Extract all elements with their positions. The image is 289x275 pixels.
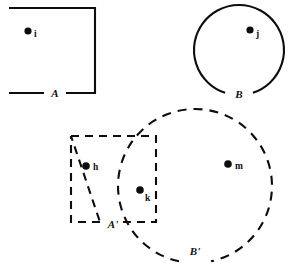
point-i-dot [24, 27, 31, 34]
point-m-dot [224, 160, 232, 168]
region-a-square-outline [9, 8, 95, 93]
point-k-dot [136, 186, 144, 194]
region-a-prime-square-outline [71, 136, 156, 222]
point-m: m [224, 160, 243, 171]
region-b-prime-label: B' [189, 245, 200, 257]
point-h: h [82, 162, 99, 172]
point-k-label: k [145, 193, 151, 203]
point-i: i [24, 27, 37, 39]
point-k: k [136, 186, 151, 203]
point-h-dot [82, 162, 90, 170]
region-b-group: B [194, 5, 284, 100]
region-a-label: A [50, 87, 58, 99]
point-m-label: m [235, 161, 243, 171]
region-a-prime-label: A' [107, 218, 118, 230]
set-diagram-figure: A B A' B' i j [0, 0, 289, 275]
region-b-prime-group: B' [118, 109, 272, 261]
region-b-circle-outline [194, 5, 284, 93]
point-h-label: h [93, 162, 99, 172]
region-a-prime-group: A' [71, 136, 156, 230]
points-group: i j h k m [24, 26, 259, 203]
point-j-label: j [255, 29, 259, 39]
point-j: j [246, 26, 259, 39]
point-i-label: i [34, 29, 37, 39]
point-j-dot [246, 26, 253, 33]
region-a-group: A [9, 8, 95, 99]
region-b-prime-circle-outline [118, 109, 272, 261]
diagram-canvas: A B A' B' i j [0, 0, 289, 275]
region-b-label: B [234, 88, 242, 100]
